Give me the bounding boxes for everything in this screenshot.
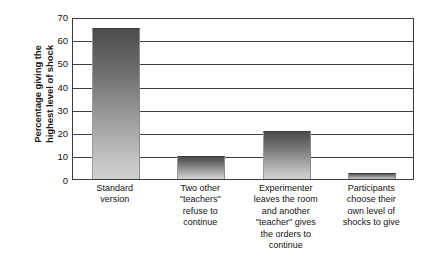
x-axis-tick-label-line: continue (243, 240, 329, 251)
bar[interactable] (263, 131, 311, 179)
x-axis-tick-label-line: Standard (72, 183, 158, 194)
y-axis-tick-label: 70 (44, 12, 68, 23)
y-axis-tick-label: 60 (44, 35, 68, 46)
bar-slot (330, 19, 416, 180)
x-axis-tick-label-line: the orders to (243, 229, 329, 240)
bars-group (73, 19, 413, 180)
y-axis-tick-labels: 706050403020100 (44, 12, 68, 192)
y-axis-title-line-1: Percentage giving the (32, 45, 44, 143)
bar-slot (244, 19, 330, 180)
x-axis-tick-label: Experimenterleaves the roomand another"t… (243, 183, 329, 251)
x-axis-tick-label-line: refuse to (158, 206, 244, 217)
bar[interactable] (177, 156, 225, 179)
x-axis-tick-label-line: shocks to give (329, 217, 415, 228)
bar[interactable] (92, 28, 140, 179)
x-axis-tick-label-line: Two other (158, 183, 244, 194)
x-axis-tick-label-line: "teacher" gives (243, 217, 329, 228)
x-axis-tick-label-line: version (72, 194, 158, 205)
x-axis-tick-label: Participantschoose theirown level ofshoc… (329, 183, 415, 229)
x-axis-tick-label-line: own level of (329, 206, 415, 217)
plot-area (72, 18, 414, 181)
bar-chart-figure: Percentage giving the highest level of s… (0, 0, 435, 267)
x-axis-tick-label-line: and another (243, 206, 329, 217)
y-axis-tick-label: 10 (44, 151, 68, 162)
x-axis-tick-label-line: Experimenter (243, 183, 329, 194)
y-axis-tick-label: 20 (44, 128, 68, 139)
x-axis-tick-label: Two other"teachers"refuse tocontinue (158, 183, 244, 229)
x-axis-tick-label-line: continue (158, 217, 244, 228)
y-axis-tick-label: 50 (44, 58, 68, 69)
x-axis-tick-label-line: leaves the room (243, 194, 329, 205)
bar-slot (73, 19, 159, 180)
y-axis-tick-label: 30 (44, 105, 68, 116)
x-axis-tick-label-line: "teachers" (158, 194, 244, 205)
x-axis-tick-label-line: choose their (329, 194, 415, 205)
x-axis-tick-labels: StandardversionTwo other"teachers"refuse… (72, 183, 414, 267)
x-axis-tick-label-line: Participants (329, 183, 415, 194)
y-axis-tick-label: 40 (44, 82, 68, 93)
bar[interactable] (348, 173, 396, 179)
y-axis-tick-label: 0 (44, 175, 68, 186)
x-axis-tick-label: Standardversion (72, 183, 158, 206)
bar-slot (159, 19, 245, 180)
